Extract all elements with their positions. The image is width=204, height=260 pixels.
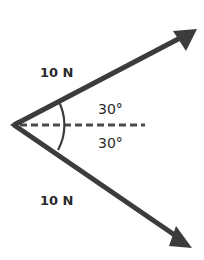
lower-angle-label: 30° <box>98 135 123 151</box>
vertex <box>10 120 18 130</box>
lower-force-label: 10 N <box>40 193 74 208</box>
lower-force-vector <box>14 125 179 238</box>
upper-force-label: 10 N <box>40 65 74 80</box>
upper-angle-label: 30° <box>98 101 123 117</box>
force-diagram: 10 N 10 N 30° 30° <box>0 0 204 260</box>
lower-arrowhead-icon <box>169 226 192 248</box>
